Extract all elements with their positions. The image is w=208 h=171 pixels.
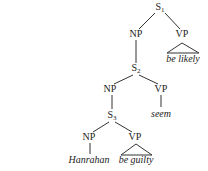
node-s2-np: NP (104, 84, 117, 94)
node-s1-np: NP (130, 29, 143, 39)
leaf-seem: seem (151, 109, 171, 119)
leaf-hanrahan: Hanrahan (68, 155, 109, 165)
node-s2-vp: VP (155, 84, 168, 94)
node-s3-vp: VP (129, 132, 142, 142)
node-s2: S2 (131, 63, 140, 75)
leaf-be-likely: be likely (166, 54, 200, 64)
node-s1-vp: VP (176, 29, 189, 39)
node-s3: S3 (107, 110, 116, 122)
node-s3-np: NP (83, 132, 96, 142)
node-s1: S1 (155, 2, 164, 14)
leaf-be-guilty: be guilty (119, 155, 154, 165)
